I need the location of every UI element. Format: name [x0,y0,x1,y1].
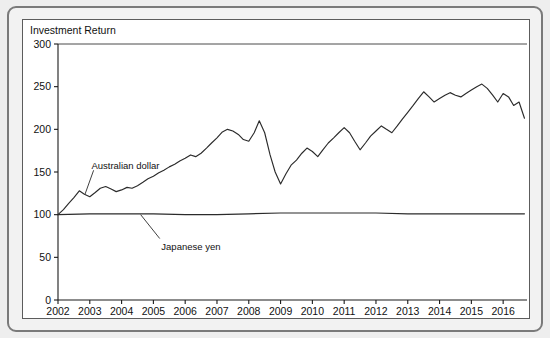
y-tick-label: 0 [45,294,51,306]
x-tick-label: 2003 [78,305,102,317]
y-tick-label: 250 [33,80,51,92]
series-annotation-label: Japanese yen [161,241,220,252]
leader-line [141,215,160,239]
x-tick-label: 2008 [237,305,261,317]
series-line-australian-dollar [58,84,524,215]
axis-lines [58,44,527,300]
x-tick-label: 2010 [301,305,325,317]
chart-plot: 050100150200250300 200220032004200520062… [0,0,550,338]
x-tick-label: 2012 [364,305,388,317]
series-lines [58,84,524,215]
leader-line [85,170,94,194]
x-tick-label: 2013 [396,305,420,317]
x-axis-tick-labels: 2002200320042005200620072008200920102011… [46,305,515,317]
annotation-labels: Australian dollarJapanese yen [91,160,220,252]
figure-root: Investment Return 050100150200250300 200… [0,0,550,338]
x-tick-label: 2016 [491,305,515,317]
annotation-leader-lines [85,170,160,238]
series-annotation-label: Australian dollar [91,160,159,171]
x-tick-label: 2006 [174,305,198,317]
x-tick-label: 2007 [205,305,229,317]
series-line-japanese-yen [58,213,524,215]
y-tick-label: 50 [39,251,51,263]
y-axis-tick-labels: 050100150200250300 [33,38,51,306]
y-axis-ticks [54,44,58,300]
y-tick-label: 200 [33,123,51,135]
y-tick-label: 100 [33,208,51,220]
x-tick-label: 2011 [333,305,356,317]
x-tick-label: 2009 [269,305,293,317]
x-tick-label: 2014 [428,305,452,317]
x-tick-label: 2015 [460,305,484,317]
x-tick-label: 2005 [142,305,166,317]
x-tick-label: 2002 [46,305,70,317]
x-tick-label: 2004 [110,305,134,317]
y-tick-label: 300 [33,38,51,50]
x-axis-ticks [58,300,503,304]
y-tick-label: 150 [33,166,51,178]
